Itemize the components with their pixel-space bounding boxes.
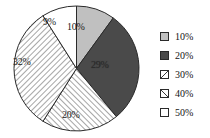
legend-swatch-icon-2 xyxy=(160,51,169,60)
legend-item-2[interactable]: 20% xyxy=(160,46,208,65)
legend-item-1[interactable]: 10% xyxy=(160,27,208,46)
legend-swatch-icon-3 xyxy=(160,70,169,79)
pie-chart-area: 10%29%20%32%9% xyxy=(0,0,152,138)
legend-label-3: 30% xyxy=(175,70,193,80)
pie-slice-label-3: 20% xyxy=(62,110,80,120)
pie-slice-label-4: 32% xyxy=(13,57,31,67)
pie-slice-label-5: 9% xyxy=(43,17,56,27)
legend-label-1: 10% xyxy=(175,32,193,42)
legend-label-4: 40% xyxy=(175,89,193,99)
legend-swatch-icon-5 xyxy=(160,108,169,117)
chart-legend: 10%20%30%40%50% xyxy=(160,27,208,122)
pie-slice-label-2: 29% xyxy=(91,60,109,70)
legend-item-4[interactable]: 40% xyxy=(160,84,208,103)
legend-item-5[interactable]: 50% xyxy=(160,103,208,122)
legend-item-3[interactable]: 30% xyxy=(160,65,208,84)
legend-label-2: 20% xyxy=(175,51,193,61)
pie-slice-label-1: 10% xyxy=(67,22,85,32)
legend-swatch-icon-1 xyxy=(160,32,169,41)
pie-chart-screenshot: 10%29%20%32%9% 10%20%30%40%50% xyxy=(0,0,210,138)
legend-swatch-icon-4 xyxy=(160,89,169,98)
legend-label-5: 50% xyxy=(175,108,193,118)
